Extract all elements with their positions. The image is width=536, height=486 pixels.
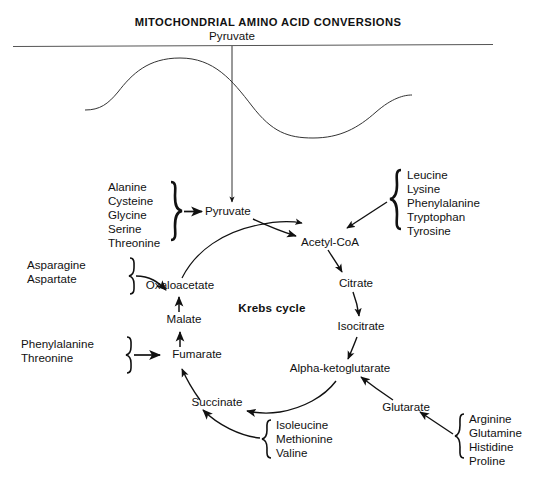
brace-to-acetyl-coa [390, 170, 401, 229]
node-succinate: Succinate [192, 396, 243, 408]
amino-acid-item: Tyrosine [407, 224, 480, 238]
amino-acid-item: Alanine [108, 180, 160, 194]
membrane-straight-line [13, 45, 493, 47]
amino-acid-item: Phenylalanine [21, 337, 94, 351]
amino-acid-item: Methionine [276, 432, 333, 446]
brace-to-glutarate [455, 414, 464, 458]
amino-acid-item: Arginine [469, 412, 522, 426]
node-malate: Malate [167, 313, 202, 325]
amino-acid-item: Serine [108, 222, 160, 236]
amino-group-to-acetyl-coa: Leucine Lysine Phenylalanine Tryptophan … [407, 168, 480, 238]
amino-group-to-glutarate: Arginine Glutamine Histidine Proline [469, 412, 522, 468]
amino-acid-item: Lysine [407, 182, 480, 196]
amino-acid-item: Leucine [407, 168, 480, 182]
node-isocitrate: Isocitrate [337, 320, 384, 332]
amino-acid-item: Cysteine [108, 194, 160, 208]
amino-acid-item: Phenylalanine [407, 196, 480, 210]
node-citrate: Citrate [339, 277, 373, 289]
arrow-citrate-to-isocitrate [353, 292, 359, 316]
arrow-group-to-acetyl-coa [347, 202, 387, 228]
node-oxaloacetate: Oxaloacetate [146, 279, 214, 291]
brace-to-oxaloacetate [129, 258, 134, 294]
arrow-acetyl-coa-to-citrate [328, 250, 342, 272]
amino-acid-item: Histidine [469, 440, 522, 454]
figure-title: MITOCHONDRIAL AMINO ACID CONVERSIONS [0, 17, 536, 28]
node-alpha-ketoglutarate: Alpha-ketoglutarate [290, 362, 391, 374]
node-fumarate: Fumarate [172, 348, 222, 360]
krebs-cycle-label: Krebs cycle [238, 302, 305, 314]
amino-acid-item: Tryptophan [407, 210, 480, 224]
mitochondrial-amino-acid-conversions-figure: MITOCHONDRIAL AMINO ACID CONVERSIONS Pyr… [0, 0, 536, 486]
arrow-group-to-glutarate [420, 412, 453, 434]
arrow-glutarate-to-alpha-ketoglutarate [361, 377, 393, 400]
amino-acid-item: Aspartate [27, 272, 86, 286]
arrow-isocitrate-to-alpha-ketoglutarate [348, 337, 357, 359]
membrane-wave-line [85, 58, 412, 138]
amino-acid-item: Proline [469, 454, 522, 468]
arrow-oxaloacetate-to-acetyl-coa [182, 222, 302, 278]
arrow-alpha-ketoglutarate-to-succinate [247, 381, 336, 413]
amino-group-to-fumarate: Phenylalanine Threonine [21, 337, 94, 365]
amino-acid-item: Valine [276, 446, 333, 460]
amino-acid-item: Threonine [108, 236, 160, 250]
node-glutarate: Glutarate [382, 401, 430, 413]
amino-acid-item: Threonine [21, 351, 94, 365]
brace-to-succinate [262, 420, 271, 458]
amino-acid-item: Glycine [108, 208, 160, 222]
amino-group-to-oxaloacetate: Asparagine Aspartate [27, 258, 86, 286]
membrane-pyruvate-label: Pyruvate [209, 30, 255, 42]
amino-group-to-succinate: Isoleucine Methionine Valine [276, 418, 333, 460]
amino-group-to-pyruvate: Alanine Cysteine Glycine Serine Threonin… [108, 180, 160, 250]
node-acetyl-coa: Acetyl-CoA [301, 236, 359, 248]
brace-to-fumarate [126, 337, 131, 373]
amino-acid-item: Asparagine [27, 258, 86, 272]
diagram-artwork [0, 0, 536, 486]
node-pyruvate: Pyruvate [205, 205, 251, 217]
brace-to-pyruvate [171, 182, 182, 240]
amino-acid-item: Glutamine [469, 426, 522, 440]
amino-acid-item: Isoleucine [276, 418, 333, 432]
arrow-group-to-succinate [203, 410, 260, 438]
